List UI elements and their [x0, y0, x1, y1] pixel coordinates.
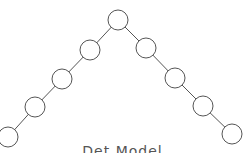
tree-node [108, 10, 128, 30]
tree-node [25, 97, 45, 117]
tree-node [222, 124, 242, 144]
tree-diagram [0, 0, 245, 153]
tree-node [80, 40, 100, 60]
diagram-caption: Det Model [0, 143, 245, 153]
tree-node [165, 68, 185, 88]
tree-node [136, 38, 156, 58]
tree-node [52, 69, 72, 89]
tree-node [193, 96, 213, 116]
